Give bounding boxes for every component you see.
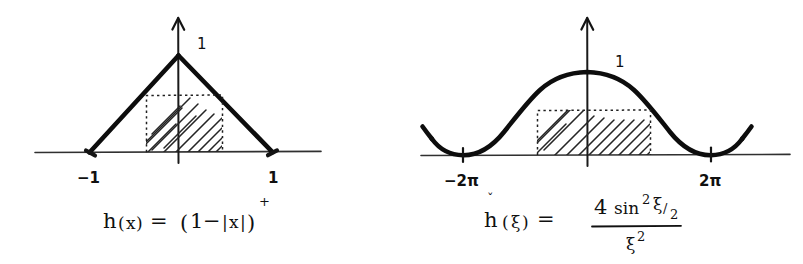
left-formula-body-open-paren: (: [180, 211, 188, 235]
right-formula-numerator-arg-slash: /: [663, 201, 668, 216]
right-formula-hat-accent: ˇ: [487, 191, 494, 206]
left-formula-close-paren: ): [136, 213, 143, 233]
right-formula-equals: =: [537, 207, 555, 231]
left-formula-open-paren: (: [118, 213, 125, 233]
right-formula: ˇ h ( ξ ) = 4 sin 2 ξ / 2 ξ 2: [484, 191, 681, 254]
right-formula-numerator-arg-xi: ξ: [653, 194, 662, 214]
right-y-tick-label: 1: [615, 53, 625, 71]
right-formula-h: h: [484, 208, 498, 232]
right-curve-left-tail: [423, 127, 433, 140]
left-formula-variable: x: [126, 213, 136, 233]
right-formula-denominator-xi: ξ: [626, 234, 635, 254]
right-formula-numerator-coefficient: 4: [594, 195, 607, 219]
left-panel-tent-plot: 1 −1 1 h ( x ) = ( 1 − | x | ) +: [35, 18, 321, 235]
left-formula-abs-open: |: [222, 212, 228, 232]
right-x-tick-label-minus-two-pi: −2π: [444, 172, 479, 190]
left-formula: h ( x ) = ( 1 − | x | ) +: [103, 194, 270, 235]
right-formula-denominator-exponent: 2: [637, 229, 645, 244]
right-formula-numerator-arg-two: 2: [670, 207, 678, 222]
left-formula-h: h: [103, 209, 117, 233]
left-y-tick-label: 1: [197, 35, 207, 53]
right-formula-fraction-bar: [592, 226, 681, 227]
left-formula-body-close-paren: ): [247, 211, 255, 235]
left-tent-left-leg: [90, 56, 179, 153]
handwritten-figure: 1 −1 1 h ( x ) = ( 1 − | x | ) +: [0, 0, 803, 264]
left-formula-one: 1: [190, 209, 203, 233]
left-tent-right-leg: [179, 56, 273, 153]
right-formula-numerator-sin: sin: [614, 198, 639, 218]
right-curve-right-tail: [742, 127, 752, 140]
left-x-tick-label-one: 1: [268, 169, 278, 187]
right-formula-close-paren: ): [522, 212, 529, 232]
right-panel-fourier-plot: 1 −2π 2π ˇ h ( ξ ) = 4 sin 2 ξ / 2: [421, 18, 790, 254]
left-formula-equals: =: [150, 209, 168, 233]
left-formula-minus: −: [203, 209, 221, 233]
left-formula-abs-variable: x: [229, 212, 239, 232]
left-formula-abs-close: |: [240, 212, 246, 232]
left-x-tick-label-minus-one: −1: [77, 169, 100, 187]
right-formula-open-paren: (: [502, 212, 509, 232]
right-x-tick-label-two-pi: 2π: [699, 172, 721, 190]
figure-canvas: 1 −1 1 h ( x ) = ( 1 − | x | ) +: [0, 0, 803, 264]
right-formula-numerator-exponent: 2: [642, 192, 650, 207]
right-formula-variable-xi: ξ: [511, 212, 520, 232]
left-formula-plus-superscript: +: [259, 194, 270, 209]
